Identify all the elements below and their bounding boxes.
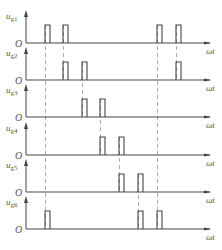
alignment-dashed-lines — [46, 25, 177, 229]
y-axis-arrow-icon — [24, 159, 28, 166]
x-axis-label: ωt — [206, 232, 215, 242]
pulse-row-g6: Oug6ωt — [6, 196, 215, 242]
origin-label: O — [15, 187, 22, 198]
signal-label: ug5 — [6, 160, 18, 172]
x-axis-arrow-icon — [204, 78, 211, 81]
pulse-row-g3: Oug3ωt — [6, 84, 215, 130]
gate-pulse — [45, 211, 50, 229]
x-axis-label: ωt — [206, 195, 215, 205]
pulse-row-g5: Oug5ωt — [6, 159, 215, 205]
gate-pulse — [157, 211, 162, 229]
y-axis-arrow-icon — [24, 122, 28, 129]
origin-label: O — [15, 150, 22, 161]
origin-label: O — [15, 38, 22, 49]
y-axis-arrow-icon — [24, 10, 28, 17]
x-axis-arrow-icon — [204, 190, 211, 193]
x-axis-arrow-icon — [204, 227, 211, 230]
x-axis-label: ωt — [206, 46, 215, 56]
signal-label: ug6 — [6, 197, 18, 209]
x-axis-arrow-icon — [204, 153, 211, 156]
origin-label: O — [15, 112, 22, 123]
pulse-row-g4: Oug4ωt — [6, 122, 215, 168]
gate-pulse-timing-diagram: Oug1ωtOug2ωtOug3ωtOug4ωtOug5ωtOug6ωt — [0, 0, 222, 250]
signal-label: ug2 — [6, 48, 18, 60]
gate-pulse — [100, 137, 105, 155]
y-axis-arrow-icon — [24, 47, 28, 54]
origin-label: O — [15, 75, 22, 86]
pulse-row-g2: Oug2ωt — [6, 47, 215, 93]
pulse-row-g1: Oug1ωt — [6, 10, 215, 56]
x-axis-arrow-icon — [204, 115, 211, 118]
y-axis-arrow-icon — [24, 84, 28, 91]
origin-label: O — [15, 224, 22, 235]
y-axis-arrow-icon — [24, 196, 28, 203]
x-axis-arrow-icon — [204, 41, 211, 44]
signal-label: ug3 — [6, 85, 18, 97]
signal-label: ug1 — [6, 11, 18, 23]
pulse-rows: Oug1ωtOug2ωtOug3ωtOug4ωtOug5ωtOug6ωt — [6, 10, 215, 242]
x-axis-label: ωt — [206, 83, 215, 93]
x-axis-label: ωt — [206, 120, 215, 130]
x-axis-label: ωt — [206, 158, 215, 168]
signal-label: ug4 — [6, 123, 18, 135]
